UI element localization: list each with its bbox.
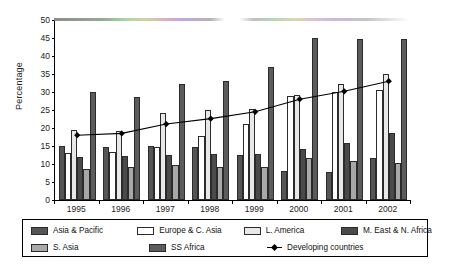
x-axis-tick-label: 1996 <box>99 204 144 220</box>
bar-group <box>233 20 278 200</box>
legend-row-1: Asia & PacificEurope & C. AsiaL. America… <box>23 222 427 239</box>
y-axis-tick-label: 50 <box>41 15 55 25</box>
legend-swatch-icon <box>341 227 358 235</box>
x-axis-tick-label: 2001 <box>321 204 366 220</box>
legend-swatch-icon <box>31 244 48 252</box>
y-axis-tick-label: 20 <box>41 123 55 133</box>
bar-group <box>322 20 367 200</box>
y-axis-tick-label: 40 <box>41 51 55 61</box>
bar-ss-africa-1997 <box>179 84 185 200</box>
legend-item-m-east-n-africa[interactable]: M. East & N. Africa <box>333 222 427 239</box>
legend-item-asia-pacific[interactable]: Asia & Pacific <box>23 222 129 239</box>
y-axis-tick-label: 5 <box>45 177 55 187</box>
chart-legend: Asia & PacificEurope & C. AsiaL. America… <box>22 219 428 257</box>
x-axis-tick-label: 2000 <box>277 204 322 220</box>
bar-ss-africa-1996 <box>134 97 140 200</box>
bar-ss-africa-1995 <box>90 92 96 200</box>
legend-label: S. Asia <box>53 243 79 252</box>
legend-swatch-icon <box>244 227 261 235</box>
x-axis-labels: 19951996199719981999200020012002 <box>54 204 410 220</box>
legend-label: Asia & Pacific <box>53 226 103 235</box>
legend-item-s-asia[interactable]: S. Asia <box>23 239 141 256</box>
x-axis-tick-label: 1998 <box>188 204 233 220</box>
legend-item-developing-countries[interactable]: Developing countries <box>259 239 407 256</box>
x-axis-tick-label: 1997 <box>143 204 188 220</box>
legend-row-2: S. AsiaSS AfricaDeveloping countries <box>23 239 427 256</box>
y-axis-tick-label: 35 <box>41 69 55 79</box>
y-axis-tick-label: 15 <box>41 141 55 151</box>
y-axis-tick-label: 30 <box>41 87 55 97</box>
legend-item-l-america[interactable]: L. America <box>236 222 333 239</box>
legend-label: Developing countries <box>287 243 363 252</box>
bar-group <box>144 20 189 200</box>
legend-item-ss-africa[interactable]: SS Africa <box>141 239 259 256</box>
x-axis-tick-label: 2002 <box>366 204 411 220</box>
legend-line-marker-icon <box>267 244 282 252</box>
bar-group <box>278 20 323 200</box>
bar-groups <box>55 20 411 200</box>
scan-artifact-stripe <box>54 18 410 21</box>
x-axis-tick <box>410 200 411 204</box>
y-axis-tick-label: 10 <box>41 159 55 169</box>
x-axis-tick-label: 1999 <box>232 204 277 220</box>
bar-ss-africa-1999 <box>268 67 274 200</box>
y-axis-tick-label: 45 <box>41 33 55 43</box>
bar-ss-africa-2002 <box>401 39 407 200</box>
legend-swatch-icon <box>137 227 154 235</box>
bar-group <box>367 20 412 200</box>
legend-swatch-icon <box>31 227 48 235</box>
chart-area: Percentage 05101520253035404550 19951996… <box>0 6 450 211</box>
legend-label: Europe & C. Asia <box>159 226 221 235</box>
bar-group <box>189 20 234 200</box>
legend-swatch-icon <box>149 244 166 252</box>
bar-group <box>100 20 145 200</box>
bar-group <box>55 20 100 200</box>
legend-label: M. East & N. Africa <box>363 226 432 235</box>
bar-ss-africa-2001 <box>357 39 363 200</box>
plot-area: 05101520253035404550 <box>54 20 411 201</box>
legend-label: SS Africa <box>171 243 205 252</box>
y-axis-tick-label: 25 <box>41 105 55 115</box>
bar-ss-africa-2000 <box>312 38 318 200</box>
legend-label: L. America <box>266 226 305 235</box>
legend-item-europe-c-asia[interactable]: Europe & C. Asia <box>129 222 235 239</box>
x-axis-tick-label: 1995 <box>54 204 99 220</box>
bar-ss-africa-1998 <box>223 81 229 200</box>
y-axis-title: Percentage <box>14 31 24 141</box>
chart-figure: Percentage 05101520253035404550 19951996… <box>0 0 450 264</box>
